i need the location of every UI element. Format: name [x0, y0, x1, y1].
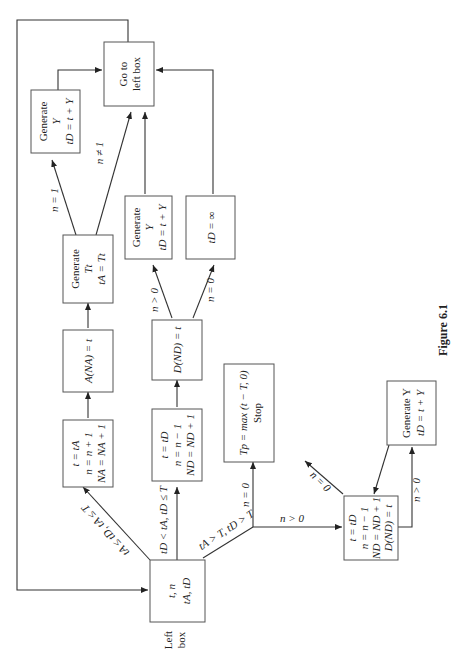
svg-text:n = 0: n = 0 [239, 483, 251, 507]
svg-text:n > 0: n > 0 [410, 478, 422, 502]
edge-label-n-eq-0-b: n = 0 [239, 483, 251, 507]
svg-text:n > 0: n > 0 [148, 288, 160, 312]
arrival-update-line-1: t = tA [69, 440, 81, 466]
left-box-caption-line-1: Left [162, 631, 174, 649]
set-infinity-line-1: tD = ∞ [205, 211, 217, 243]
svg-text:n = 0: n = 0 [308, 468, 334, 494]
edge-label-n-eq-1: n = 1 [48, 188, 60, 212]
goto-left-line-1: Go to [117, 61, 129, 86]
departure-update-line-1: t = tD [158, 431, 170, 458]
final-departure-line-3: ND = ND + 1 [370, 497, 382, 560]
stop-box-line-1: Tp = max (t − T, 0) [237, 370, 250, 456]
svg-text:tA > T, tD > T: tA > T, tD > T [196, 507, 256, 552]
edge-label-after-close-branch: tA > T, tD > T [196, 507, 256, 552]
generate-service-2-line-1: Generate [130, 208, 142, 248]
arrival-record-text: A(NA) = t [82, 338, 95, 384]
generate-service-1-line-1: Generate [37, 102, 49, 142]
edge-label-n-eq-0-c: n = 0 [308, 468, 334, 494]
edge-label-n-gt-0-a: n > 0 [148, 288, 160, 312]
edge-label-n-ne-1: n ≠ 1 [93, 142, 105, 165]
generate-arrival-line-1: Generate [69, 249, 81, 289]
edge-label-n-eq-0-a: n = 0 [204, 278, 216, 302]
svg-text:n ≠ 1: n ≠ 1 [93, 142, 105, 165]
left-box-line-1: t, n [165, 583, 177, 598]
generate-service-2-line-3: tD = t + Y [156, 203, 168, 251]
departure-record-text: D(ND) = t [171, 326, 184, 374]
departure-update-line-3: ND = ND + 1 [184, 414, 196, 477]
edge-label-n-gt-0-c: n > 0 [410, 478, 422, 502]
departure-record-line-1: D(ND) = t [171, 326, 184, 374]
goto-left-text: Go to left box [117, 57, 142, 91]
figure-caption: Figure 6.1 [436, 304, 450, 356]
final-departure-line-4: D(ND) = t [382, 504, 395, 552]
goto-left-line-2: left box [130, 57, 142, 91]
svg-text:Figure 6.1: Figure 6.1 [436, 304, 450, 356]
generate-arrival-line-3: tA = Tt [95, 252, 107, 285]
final-departure-line-1: t = tD [346, 514, 358, 541]
left-box-caption-line-2: box [175, 631, 187, 648]
arrow-infinity-to-goto [156, 70, 213, 194]
generate-service-3-line-1: Generate Y [400, 388, 412, 438]
generate-service-3-line-2: tD = t + Y [414, 388, 426, 436]
generate-service-box-3 [387, 381, 436, 445]
arrival-update-line-3: NA = NA + 1 [95, 424, 107, 484]
left-box [150, 560, 205, 622]
arrow-generate-y3-to-final [374, 445, 389, 494]
left-box-line-2: tA, tD [180, 578, 192, 604]
goto-left-box [104, 42, 154, 106]
svg-text:n > 0: n > 0 [280, 512, 304, 524]
stop-box-line-2: Stop [251, 402, 263, 423]
final-departure-line-2: n = n − 1 [358, 507, 370, 549]
svg-text:tD < tA, tD ≤ T: tD < tA, tD ≤ T [157, 485, 169, 554]
set-infinity-text: tD = ∞ [205, 211, 217, 243]
edge-label-n-gt-0-b: n > 0 [280, 512, 304, 524]
flowchart: t, n tA, tD t = tA n = n + 1 NA = NA + 1… [0, 0, 476, 659]
generate-service-1-line-3: tD = t + Y [63, 97, 75, 145]
generate-arrival-line-2: Tt [82, 263, 94, 273]
left-box-caption: Left box [162, 631, 187, 649]
svg-text:n = 0: n = 0 [204, 278, 216, 302]
arrow-generate-y1-to-goto [58, 70, 102, 90]
arrival-record-line-1: A(NA) = t [82, 338, 95, 384]
svg-text:n = 1: n = 1 [48, 188, 60, 212]
stop-box [224, 364, 274, 462]
arrival-update-line-2: n = n + 1 [82, 432, 94, 474]
edge-label-departure-branch: tD < tA, tD ≤ T [157, 485, 169, 554]
departure-update-line-2: n = n − 1 [171, 424, 183, 466]
